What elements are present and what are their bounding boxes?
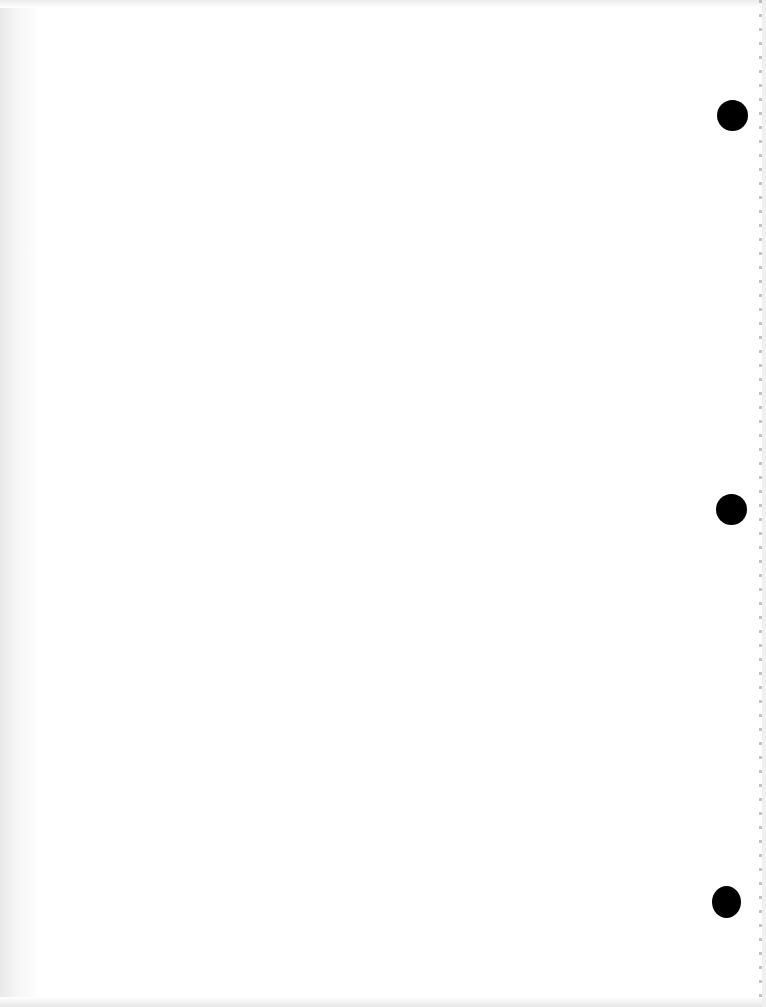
scan-bottom-shadow	[0, 997, 766, 1007]
scan-top-shadow	[0, 0, 766, 8]
punch-hole-top	[717, 100, 748, 131]
scanned-page	[0, 0, 766, 1007]
punch-hole-bottom	[712, 886, 741, 918]
page-right-edge	[762, 0, 766, 1007]
perforation-edge	[759, 0, 762, 1007]
punch-hole-middle	[716, 494, 747, 525]
